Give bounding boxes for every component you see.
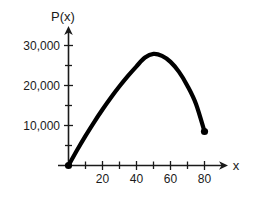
y-axis-title: P(x) (51, 9, 75, 24)
curve-end-point-marker (201, 128, 208, 135)
x-tick-label-60: 60 (164, 172, 178, 186)
profit-curve-figure: 30,000 20,000 10,000 20 40 60 80 P(x) x (0, 0, 255, 198)
y-tick-label-30000: 30,000 (23, 39, 60, 53)
x-axis-title: x (233, 158, 240, 173)
curve-start-point-marker (65, 162, 72, 169)
chart-canvas: 30,000 20,000 10,000 20 40 60 80 P(x) x (0, 0, 255, 198)
x-tick-label-80: 80 (198, 172, 212, 186)
x-tick-label-20: 20 (96, 172, 110, 186)
y-tick-label-20000: 20,000 (23, 79, 60, 93)
x-axis (58, 161, 228, 170)
profit-curve-line (69, 54, 205, 166)
y-tick-label-10000: 10,000 (23, 119, 60, 133)
y-axis (64, 26, 73, 168)
x-tick-label-40: 40 (130, 172, 144, 186)
